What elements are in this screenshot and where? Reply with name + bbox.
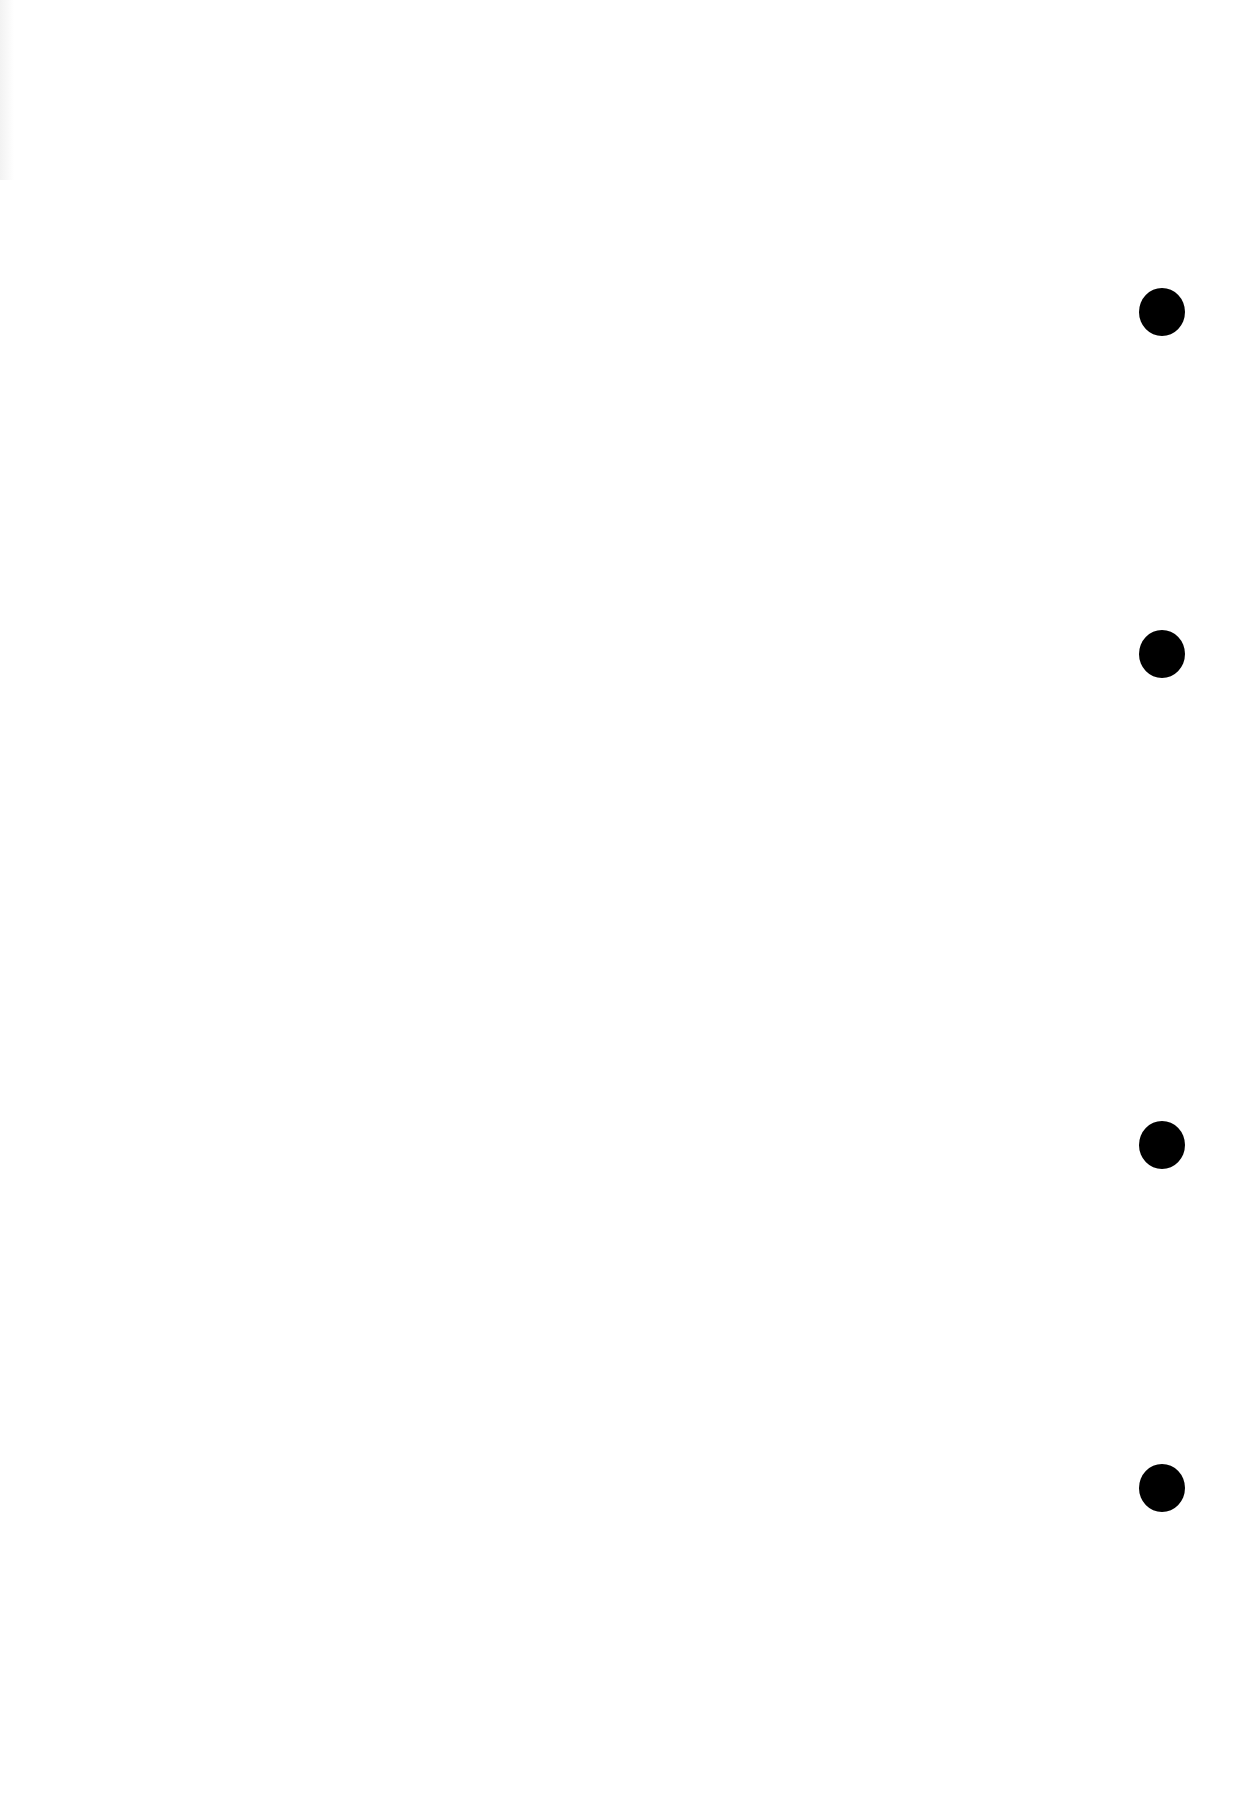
blank-page: [0, 0, 1247, 1805]
punch-hole-icon: [1139, 630, 1185, 678]
punch-hole-icon: [1139, 1121, 1185, 1169]
punch-hole-icon: [1139, 288, 1185, 336]
page-edge-shadow: [0, 0, 14, 180]
punch-hole-icon: [1139, 1464, 1185, 1512]
